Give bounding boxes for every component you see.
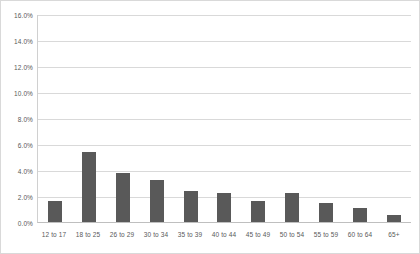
bar-slot [140, 15, 174, 222]
bar-series [38, 15, 411, 222]
x-tick-label: 65+ [377, 224, 411, 238]
x-tick-label: 26 to 29 [105, 224, 139, 238]
bar-slot [241, 15, 275, 222]
bar [184, 191, 198, 222]
bar-slot [343, 15, 377, 222]
y-tick-label: 8.0% [18, 116, 33, 123]
y-axis: 0.0%2.0%4.0%6.0%8.0%10.0%12.0%14.0%16.0% [1, 1, 37, 223]
x-tick-label: 50 to 54 [275, 224, 309, 238]
bar [116, 173, 130, 222]
bar-slot [275, 15, 309, 222]
bar-slot [72, 15, 106, 222]
bar [353, 208, 367, 222]
x-tick-label: 55 to 59 [309, 224, 343, 238]
y-tick-label: 10.0% [14, 90, 33, 97]
x-tick-label: 60 to 64 [343, 224, 377, 238]
y-tick-label: 6.0% [18, 142, 33, 149]
bar [251, 201, 265, 222]
bar [285, 193, 299, 222]
y-tick-label: 4.0% [18, 168, 33, 175]
bar [319, 203, 333, 222]
bar-slot [38, 15, 72, 222]
y-tick-label: 12.0% [14, 64, 33, 71]
x-tick-label: 30 to 34 [139, 224, 173, 238]
x-tick-label: 18 to 25 [71, 224, 105, 238]
bar [387, 215, 401, 222]
bar-slot [309, 15, 343, 222]
bar-slot [174, 15, 208, 222]
bar-slot [106, 15, 140, 222]
bar-chart: 0.0%2.0%4.0%6.0%8.0%10.0%12.0%14.0%16.0%… [0, 0, 420, 254]
gridline [38, 222, 411, 223]
y-tick-label: 14.0% [14, 38, 33, 45]
y-tick-label: 0.0% [18, 220, 33, 227]
bar [217, 193, 231, 222]
x-tick-label: 12 to 17 [37, 224, 71, 238]
bar [48, 201, 62, 222]
x-tick-label: 40 to 44 [207, 224, 241, 238]
plot-area [37, 15, 411, 223]
bar-slot [208, 15, 242, 222]
x-axis: 12 to 1718 to 2526 to 2930 to 3435 to 39… [37, 224, 411, 238]
x-tick-label: 45 to 49 [241, 224, 275, 238]
bar [82, 152, 96, 222]
bar-slot [377, 15, 411, 222]
y-tick-label: 16.0% [14, 12, 33, 19]
x-tick-label: 35 to 39 [173, 224, 207, 238]
bar [150, 180, 164, 222]
y-tick-label: 2.0% [18, 194, 33, 201]
